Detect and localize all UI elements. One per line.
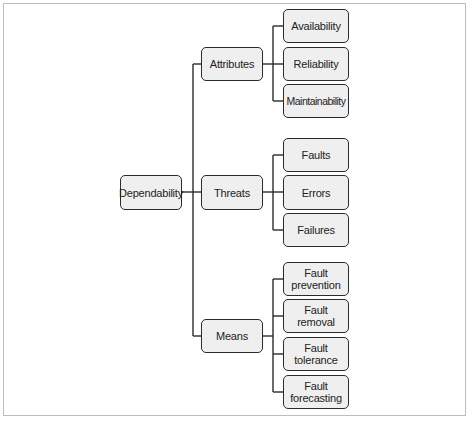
node-label: Maintainability	[286, 95, 345, 107]
node-dependability: Dependability	[120, 175, 182, 210]
node-label: Failures	[297, 224, 335, 236]
node-label-line1: Fault	[304, 380, 327, 392]
node-label-line2: prevention	[291, 279, 340, 291]
node-label: Threats	[214, 187, 250, 199]
node-errors: Errors	[283, 175, 349, 210]
node-label-line1: Fault	[304, 342, 327, 354]
node-label: Dependability	[119, 187, 183, 199]
node-attributes: Attributes	[201, 47, 263, 81]
node-fault-removal: Fault removal	[283, 299, 349, 333]
node-faults: Faults	[283, 138, 349, 172]
node-label: Availability	[291, 20, 340, 32]
node-reliability: Reliability	[283, 47, 349, 81]
node-label: Faults	[302, 149, 331, 161]
node-means: Means	[201, 319, 263, 353]
node-maintainability: Maintainability	[283, 84, 349, 118]
node-label-line2: tolerance	[294, 354, 337, 366]
node-label-line1: Fault	[304, 267, 327, 279]
node-label: Errors	[302, 187, 331, 199]
node-failures: Failures	[283, 213, 349, 247]
node-fault-tolerance: Fault tolerance	[283, 337, 349, 371]
node-fault-forecasting: Fault forecasting	[283, 375, 349, 409]
node-label: Means	[216, 330, 248, 342]
node-fault-prevention: Fault prevention	[283, 262, 349, 296]
node-availability: Availability	[283, 9, 349, 43]
node-label-line2: forecasting	[290, 392, 342, 404]
node-threats: Threats	[201, 175, 263, 210]
node-label: Attributes	[210, 58, 254, 70]
node-label-line2: removal	[297, 316, 335, 328]
node-label: Reliability	[294, 58, 339, 70]
node-label-line1: Fault	[304, 304, 327, 316]
